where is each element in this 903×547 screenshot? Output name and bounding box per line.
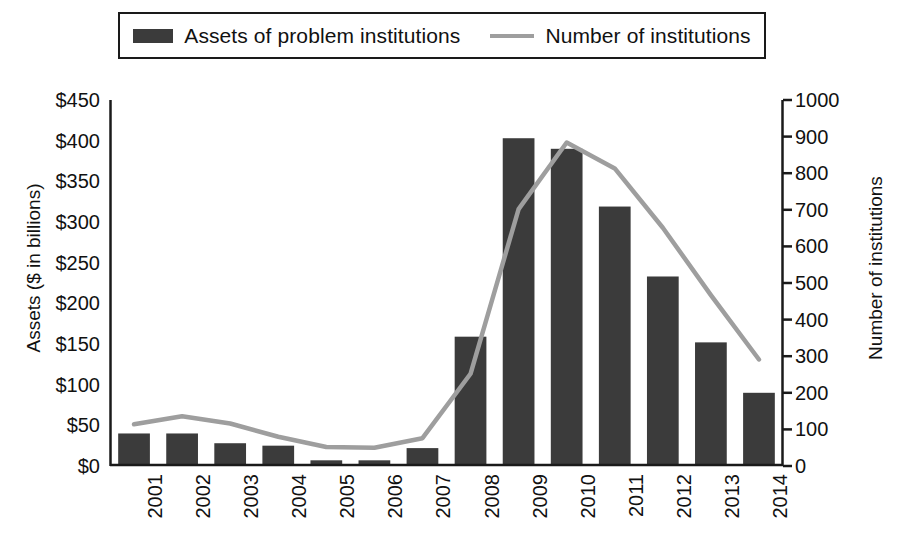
chart-figure: Assets of problem institutions Number of… [0,0,903,547]
bar-2002 [166,433,198,466]
y-axis-right-tick-label: 0 [795,455,806,478]
y-axis-left-tick-label: $200 [0,292,100,315]
y-axis-left-tick-label: $250 [0,251,100,274]
y-axis-right-title: Number of institutions [865,148,887,388]
legend-label-assets: Assets of problem institutions [184,24,460,48]
legend-label-institutions: Number of institutions [545,24,750,48]
y-axis-left-tick-label: $350 [0,170,100,193]
y-axis-left-tick-label: $150 [0,333,100,356]
legend-entry-institutions: Number of institutions [490,24,750,48]
x-axis-tick-label-2003: 2003 [240,474,263,519]
bar-2011 [599,207,631,466]
line-swatch-icon [490,34,534,38]
x-axis-tick-label-2006: 2006 [384,474,407,519]
bar-2014 [743,393,775,466]
bar-2010 [551,149,583,466]
x-axis-tick-label-2005: 2005 [336,474,359,519]
x-axis-tick-label-2009: 2009 [529,474,552,519]
x-axis-tick-label-2008: 2008 [481,474,504,519]
y-axis-right-tick-label: 600 [795,235,828,258]
bar-2008 [455,337,487,466]
y-axis-right-tick-label: 700 [795,198,828,221]
y-axis-left-tick-label: $400 [0,129,100,152]
bar-2001 [118,433,150,466]
y-axis-left-tick-label: $300 [0,211,100,234]
x-axis-tick-label-2013: 2013 [721,474,744,519]
x-axis-ticks: 2001200220032004200520062007200820092010… [110,466,783,546]
y-axis-left-tick-label: $50 [0,414,100,437]
y-axis-right-tick-label: 1000 [795,89,840,112]
bar-2007 [407,448,439,466]
x-axis-tick-label-2012: 2012 [673,474,696,519]
legend-entry-assets: Assets of problem institutions [133,24,460,48]
y-axis-right-tick-label: 900 [795,125,828,148]
x-axis-tick-label-2004: 2004 [288,474,311,519]
y-axis-right-tick-label: 100 [795,418,828,441]
bar-2003 [214,443,246,466]
x-axis-tick-label-2002: 2002 [192,474,215,519]
x-axis-tick-label-2010: 2010 [577,474,600,519]
x-axis-tick-label-2011: 2011 [625,474,648,517]
bar-2004 [262,446,294,466]
x-axis-tick-label-2007: 2007 [432,474,455,519]
x-axis-tick-label-2014: 2014 [769,474,792,519]
plot-svg [110,100,783,466]
chart-legend: Assets of problem institutions Number of… [118,12,766,59]
y-axis-right-tick-label: 200 [795,381,828,404]
y-axis-right-tick-label: 300 [795,345,828,368]
y-axis-left-tick-label: $450 [0,89,100,112]
y-axis-right-tick-label: 500 [795,272,828,295]
y-axis-right-ticks: 01002003004005006007008009001000 [795,100,865,466]
y-axis-left-tick-label: $100 [0,373,100,396]
y-axis-left-tick-label: $0 [0,455,100,478]
plot-area [110,100,783,466]
bar-2012 [647,276,679,466]
bar-2009 [503,138,535,466]
bar-swatch-icon [133,29,173,43]
y-axis-left-ticks: $0$50$100$150$200$250$300$350$400$450 [0,100,100,466]
y-axis-right-tick-label: 800 [795,162,828,185]
x-axis-tick-label-2001: 2001 [144,474,167,519]
y-axis-right-tick-label: 400 [795,308,828,331]
bar-2013 [695,342,727,466]
